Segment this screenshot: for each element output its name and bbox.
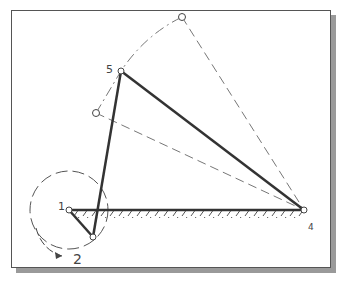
label-1: 1 <box>58 200 65 213</box>
linkage-diagram: 1 5 4 2 <box>0 0 343 282</box>
joint-crank-end <box>90 234 96 240</box>
rocker-link <box>121 71 304 210</box>
ghost-joint-top <box>179 14 186 21</box>
joint-4 <box>301 207 307 213</box>
label-5: 5 <box>106 63 113 76</box>
ghost-lines <box>96 17 304 210</box>
arrow-head-icon <box>55 252 62 259</box>
joint-1 <box>66 207 72 213</box>
ground-hatch <box>72 211 302 218</box>
label-4: 4 <box>308 222 314 232</box>
joint-5 <box>118 68 124 74</box>
label-2: 2 <box>73 251 82 267</box>
rotation-arrow <box>36 228 62 256</box>
joints <box>66 14 307 241</box>
ghost-joint-left <box>93 110 100 117</box>
